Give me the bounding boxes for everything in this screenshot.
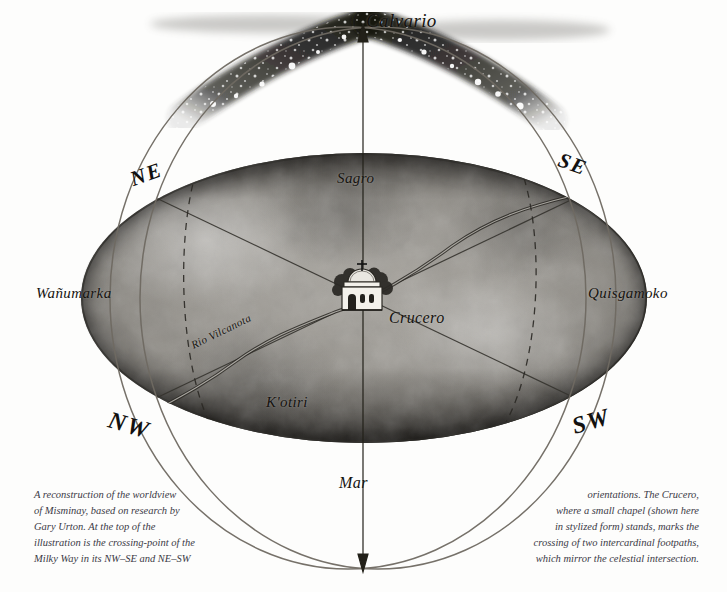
illustration-canvas: Calvario Sagro Quisgamoko K'otiri Wañuma… — [0, 0, 727, 592]
label-quisgamoko: Quisgamoko — [588, 285, 668, 302]
label-crucero: Crucero — [389, 309, 445, 327]
caption-right-line: which mirror the celestial intersection. — [454, 551, 699, 567]
label-sagro: Sagro — [337, 170, 374, 187]
crucero-chapel-icon — [330, 256, 394, 318]
caption-left-line: Milky Way in its NW–SE and NE–SW — [34, 551, 284, 567]
caption-left-line: illustration is the crossing-point of th… — [34, 535, 284, 551]
caption-left-line: of Misminay, based on research by — [34, 503, 284, 519]
label-calvario: Calvario — [366, 10, 437, 32]
caption-left-line: A reconstruction of the worldview — [34, 487, 284, 503]
caption-right-line: where a small chapel (shown here — [454, 503, 699, 519]
caption-right-line: crossing of two intercardinal footpaths, — [454, 535, 699, 551]
label-wanumarka: Wañumarka — [36, 285, 112, 302]
caption-right: orientations. The Crucero, where a small… — [454, 487, 699, 567]
label-mar: Mar — [339, 474, 368, 492]
caption-right-line: orientations. The Crucero, — [454, 487, 699, 503]
caption-right-line: in stylized form) stands, marks the — [454, 519, 699, 535]
caption-left-line: Gary Urton. At the top of the — [34, 519, 284, 535]
label-kotiri: K'otiri — [266, 394, 308, 411]
caption-left: A reconstruction of the worldview of Mis… — [34, 487, 284, 567]
